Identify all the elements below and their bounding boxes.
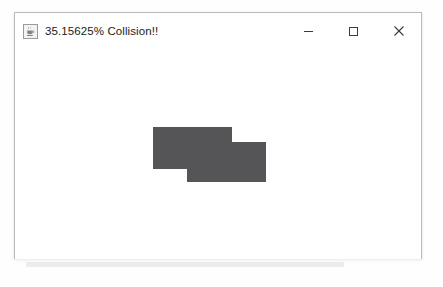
java-coffee-cup-icon xyxy=(23,24,38,39)
rectangle-two[interactable] xyxy=(187,142,266,182)
minimize-button[interactable] xyxy=(286,13,331,49)
collision-canvas[interactable] xyxy=(15,50,421,259)
backdrop-smudge xyxy=(26,262,344,267)
title-bar[interactable]: 35.15625% Collision!! xyxy=(15,13,421,50)
window-title: 35.15625% Collision!! xyxy=(45,25,158,37)
close-button[interactable] xyxy=(376,13,421,49)
application-window: 35.15625% Collision!! xyxy=(14,12,422,259)
maximize-button[interactable] xyxy=(331,13,376,49)
title-bar-left: 35.15625% Collision!! xyxy=(15,24,286,39)
window-controls xyxy=(286,13,421,49)
